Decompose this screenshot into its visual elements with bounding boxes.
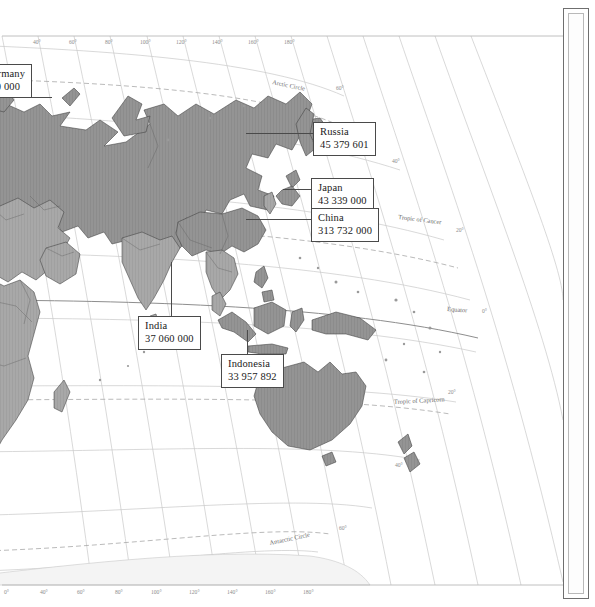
callout-germany[interactable]: Germany 700 000 <box>0 64 32 98</box>
leader-line-china <box>246 219 311 220</box>
tick-lon-bot-60: 60° <box>77 589 85 595</box>
tick-lon-top-140: 140° <box>212 39 223 45</box>
tick-lon-bot-0: 0° <box>4 589 9 595</box>
callout-russia[interactable]: Russia 45 379 601 <box>313 122 376 156</box>
leader-line-japan <box>283 189 311 190</box>
tick-lon-bot-40: 40° <box>40 589 48 595</box>
leader-line-indonesia <box>247 330 248 354</box>
callout-russia-value: 45 379 601 <box>320 138 369 151</box>
tick-lat-60n: 60° <box>336 85 344 91</box>
side-panel <box>563 8 589 599</box>
tick-lat-0: 0° <box>482 308 487 314</box>
tick-lon-bot-100: 100° <box>151 589 162 595</box>
callout-indonesia-country: Indonesia <box>228 357 277 370</box>
callout-china-country: China <box>318 211 372 224</box>
tick-lon-bot-160: 160° <box>265 589 276 595</box>
callout-india-country: India <box>145 319 194 332</box>
tick-lon-top-120: 120° <box>176 39 187 45</box>
callout-india[interactable]: India 37 060 000 <box>138 316 201 350</box>
callout-germany-value: 700 000 <box>0 80 25 93</box>
world-map-graphic: 40° 60° 80° 100° 120° 140° 160° 180° 0° … <box>0 0 563 607</box>
callout-japan-value: 43 339 000 <box>318 194 367 207</box>
tick-lat-20n: 20° <box>456 227 464 233</box>
tick-lat-40s: 40° <box>395 462 403 468</box>
callout-russia-country: Russia <box>320 125 369 138</box>
tick-lon-bot-180: 180° <box>303 589 314 595</box>
tick-lon-top-100: 100° <box>140 39 151 45</box>
callout-germany-country: Germany <box>0 67 25 80</box>
tick-lon-top-80: 80° <box>105 39 113 45</box>
tick-lon-top-180: 180° <box>284 39 295 45</box>
callout-indonesia[interactable]: Indonesia 33 957 892 <box>221 354 284 388</box>
tick-lon-bot-140: 140° <box>227 589 238 595</box>
label-equator: Equator <box>447 305 469 313</box>
side-panel-inner <box>568 13 584 594</box>
tick-lon-top-60: 60° <box>69 39 77 45</box>
callout-china-value: 313 732 000 <box>318 224 372 237</box>
callout-indonesia-value: 33 957 892 <box>228 370 277 383</box>
leader-line-india <box>171 262 172 316</box>
tick-lon-top-40: 40° <box>33 39 41 45</box>
leader-line-russia <box>246 133 313 134</box>
callout-japan[interactable]: Japan 43 339 000 <box>311 178 374 212</box>
map-plate: 40° 60° 80° 100° 120° 140° 160° 180° 0° … <box>0 0 563 607</box>
landmass-philippines-south <box>262 290 274 302</box>
tick-lon-top-160: 160° <box>248 39 259 45</box>
tick-lat-40n: 40° <box>392 158 400 164</box>
tick-lat-20s: 20° <box>448 389 456 395</box>
callout-india-value: 37 060 000 <box>145 332 194 345</box>
callout-japan-country: Japan <box>318 181 367 194</box>
callout-china[interactable]: China 313 732 000 <box>311 208 379 242</box>
tick-lon-bot-120: 120° <box>189 589 200 595</box>
tick-lon-bot-80: 80° <box>115 589 123 595</box>
map-figure: 40° 60° 80° 100° 120° 140° 160° 180° 0° … <box>0 0 595 607</box>
tick-lat-60s: 60° <box>339 525 347 531</box>
